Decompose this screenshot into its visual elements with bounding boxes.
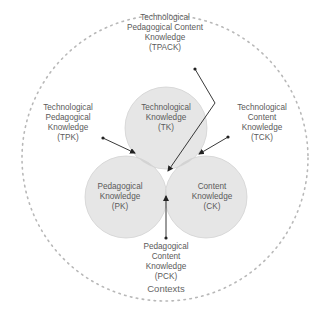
pck-label: Pedagogical Content Knowledge (PCK)	[126, 242, 206, 282]
tpk-label: Technological Pedagogical Knowledge (TPK…	[28, 103, 108, 143]
contexts-label: Contexts	[126, 284, 206, 294]
tpack-label: Technological Pedagogical Content Knowle…	[110, 13, 220, 53]
tk-label: Technological Knowledge (TK)	[126, 103, 206, 133]
tpack-arrow-dot	[193, 67, 196, 70]
pk-label: Pedagogical Knowledge (PK)	[80, 182, 160, 212]
tck-label: Technological Content Knowledge (TCK)	[222, 103, 302, 143]
ck-label: Content Knowledge (CK)	[172, 182, 252, 212]
pck-arrow-dot	[164, 236, 167, 239]
